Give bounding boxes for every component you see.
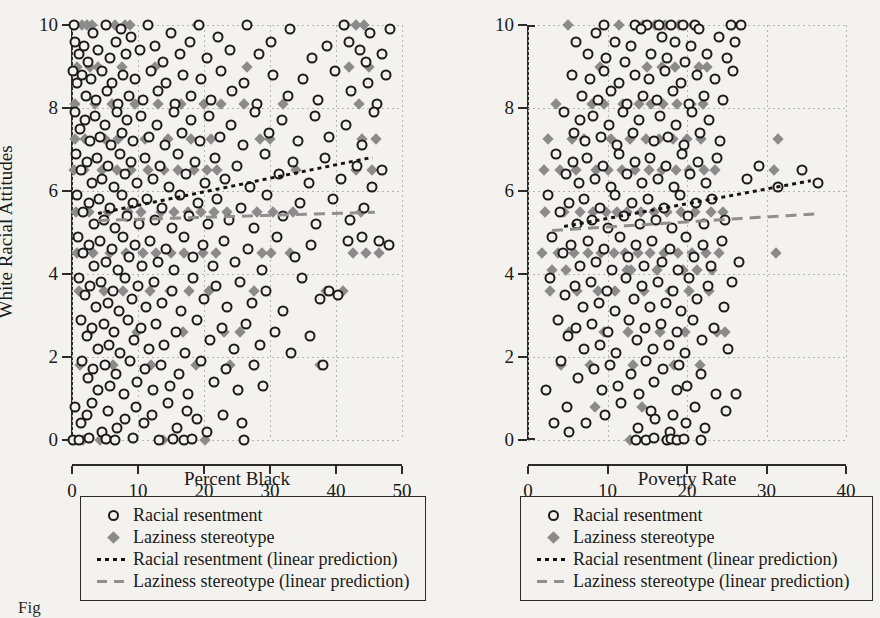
data-point-laziness [589,401,600,412]
data-point-resentment [221,364,232,375]
data-point-resentment [127,293,138,304]
y-axis-tick [62,273,71,275]
data-point-resentment [199,293,210,304]
data-point-resentment [675,78,686,89]
data-point-resentment [610,190,621,201]
data-point-resentment [561,169,572,180]
data-point-resentment [693,156,704,167]
data-point-resentment [335,173,346,184]
data-point-resentment [70,401,81,412]
data-point-resentment [233,385,244,396]
data-point-resentment [255,339,266,350]
data-point-resentment [600,410,611,421]
x-axis-line-left [72,464,402,466]
data-point-resentment [661,161,672,172]
data-point-resentment [142,20,153,31]
y-axis-tick [518,439,527,441]
y-axis-tick-label: 10 [39,14,58,36]
data-point-resentment [101,256,112,267]
data-point-resentment [655,318,666,329]
data-point-resentment [662,132,673,143]
data-point-resentment [88,28,99,39]
data-point-resentment [264,127,275,138]
data-point-resentment [292,136,303,147]
data-point-resentment [603,327,614,338]
data-point-resentment [152,119,163,130]
y-axis-tick-label: 2 [505,346,515,368]
data-point-resentment [86,177,97,188]
data-point-resentment [338,20,349,31]
data-point-resentment [595,339,606,350]
plot-area-right: 0246810010203040 [528,25,846,440]
data-point-resentment [342,235,353,246]
data-point-resentment [95,132,106,143]
data-point-resentment [100,20,111,31]
data-point-resentment [582,49,593,60]
data-point-resentment [600,53,611,64]
data-point-resentment [168,107,179,118]
data-point-resentment [569,281,580,292]
data-point-resentment [567,156,578,167]
data-point-resentment [344,215,355,226]
data-point-resentment [678,20,689,31]
data-point-resentment [111,107,122,118]
data-point-resentment [590,28,601,39]
data-point-resentment [649,376,660,387]
data-point-resentment [546,231,557,242]
data-point-resentment [674,190,685,201]
data-point-resentment [207,260,218,271]
data-point-resentment [716,235,727,246]
data-point-resentment [639,322,650,333]
data-point-laziness [360,248,371,259]
data-point-resentment [721,53,732,64]
data-point-resentment [216,65,227,76]
data-point-resentment [109,435,120,446]
data-point-resentment [733,256,744,267]
data-point-resentment [549,418,560,429]
data-point-resentment [121,49,132,60]
data-point-resentment [610,36,621,47]
data-point-resentment [611,347,622,358]
data-point-resentment [695,368,706,379]
y-axis-tick-label: 0 [505,429,515,451]
data-point-resentment [697,239,708,250]
data-point-resentment [90,111,101,122]
data-point-resentment [195,73,206,84]
data-point-resentment [178,231,189,242]
data-point-resentment [565,239,576,250]
data-point-resentment [559,289,570,300]
data-point-resentment [68,20,79,31]
data-point-resentment [119,414,130,425]
data-point-resentment [201,426,212,437]
data-point-resentment [226,119,237,130]
data-point-resentment [305,239,316,250]
data-point-resentment [340,119,351,130]
data-point-resentment [797,165,808,176]
dotted-icon [97,558,129,561]
data-point-resentment [613,148,624,159]
data-point-resentment [296,273,307,284]
data-point-resentment [629,156,640,167]
data-point-resentment [152,256,163,267]
data-point-resentment [154,435,165,446]
data-point-resentment [164,181,175,192]
data-point-resentment [298,73,309,84]
data-point-resentment [107,285,118,296]
data-point-laziness [545,285,556,296]
data-point-resentment [609,306,620,317]
data-point-resentment [127,432,138,443]
data-point-resentment [633,389,644,400]
data-point-resentment [103,405,114,416]
data-point-resentment [290,252,301,263]
gridline-vertical [270,25,271,440]
data-point-resentment [146,410,157,421]
data-point-resentment [181,405,192,416]
data-point-resentment [312,94,323,105]
data-point-resentment [713,32,724,43]
data-point-resentment [197,239,208,250]
data-point-laziness [184,285,195,296]
data-point-resentment [736,20,747,31]
data-point-resentment [145,65,156,76]
data-point-resentment [720,405,731,416]
